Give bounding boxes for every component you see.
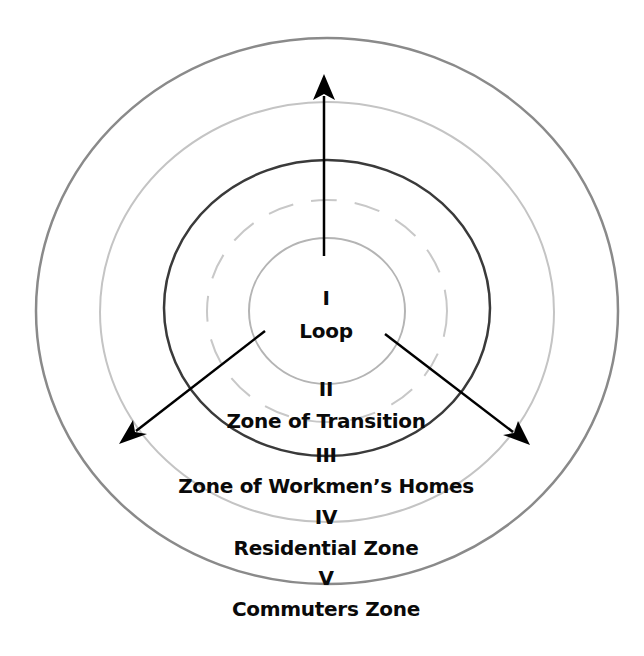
zone-2-numeral: II [0,377,644,401]
zone-1-name: Loop [0,319,644,343]
zone-5-name: Commuters Zone [0,597,644,621]
zone-3-name: Zone of Workmen’s Homes [0,474,644,498]
zone-1-numeral: I [0,286,644,310]
zone-2-name: Zone of Transition [0,409,644,433]
zone-3-numeral: III [0,443,644,467]
zone-4-name: Residential Zone [0,536,644,560]
ring-inner [249,238,405,384]
zone-5-numeral: V [0,566,644,590]
ring-outer [36,38,618,584]
zone-4-numeral: IV [0,505,644,529]
